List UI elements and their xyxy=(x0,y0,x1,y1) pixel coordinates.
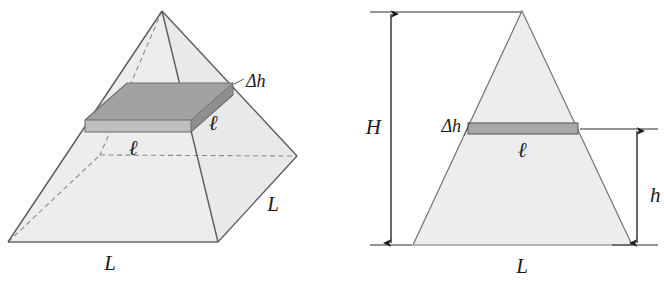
label-ell-right-3d: ℓ xyxy=(209,111,218,135)
label-L-base-right-3d: L xyxy=(266,192,279,216)
pyramid-cross-section-view: H h Δh ℓ L xyxy=(365,11,661,278)
label-L-base-front-3d: L xyxy=(103,251,116,275)
label-ell-slab-2d: ℓ xyxy=(518,138,527,162)
label-delta-h-3d: Δh xyxy=(245,71,266,91)
label-delta-h-2d: Δh xyxy=(440,116,461,136)
slab-front-face-3d xyxy=(85,120,191,132)
label-L-base-2d: L xyxy=(515,254,528,278)
label-h-partial: h xyxy=(650,183,661,207)
label-ell-front-3d: ℓ xyxy=(129,136,138,160)
slab-cross-section xyxy=(468,123,578,134)
pyramid-3d-view: Δh ℓ ℓ L L xyxy=(8,11,297,275)
figure-svg: Δh ℓ ℓ L L H h Δh ℓ xyxy=(0,0,664,282)
figure-container: Δh ℓ ℓ L L H h Δh ℓ xyxy=(0,0,664,282)
label-H-total: H xyxy=(365,115,383,139)
slab-thickness-leader-3d xyxy=(234,79,244,84)
